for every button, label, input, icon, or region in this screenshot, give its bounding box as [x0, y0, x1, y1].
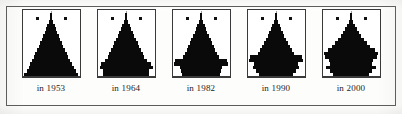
- population-pyramid-figure: in 1953in 1964in 1982in 1990in 2000: [0, 0, 402, 114]
- pyramid-plot-area: [22, 9, 81, 78]
- panel-caption: in 1953: [37, 83, 66, 94]
- baseline-axis: [323, 76, 380, 77]
- pyramid-panel: in 1964: [91, 9, 161, 94]
- panel-caption: in 1982: [187, 83, 216, 94]
- baseline-axis: [173, 76, 230, 77]
- pyramid-panel: in 2000: [316, 9, 386, 94]
- pyramid-panel: in 1953: [16, 9, 86, 94]
- pyramid-bars: [23, 13, 80, 76]
- panel-caption: in 1964: [112, 83, 141, 94]
- pyramid-bars: [323, 13, 380, 76]
- panel-caption: in 1990: [262, 83, 291, 94]
- pyramid-plot-area: [322, 9, 381, 78]
- pyramid-bars: [173, 13, 230, 76]
- baseline-axis: [248, 76, 305, 77]
- pyramid-panel-strip: in 1953in 1964in 1982in 1990in 2000: [10, 9, 392, 103]
- baseline-axis: [23, 76, 80, 77]
- pyramid-panel: in 1982: [166, 9, 236, 94]
- pyramid-bars: [248, 13, 305, 76]
- pyramid-plot-area: [97, 9, 156, 78]
- pyramid-bars: [98, 13, 155, 76]
- pyramid-panel: in 1990: [241, 9, 311, 94]
- panel-caption: in 2000: [337, 83, 366, 94]
- pyramid-plot-area: [172, 9, 231, 78]
- baseline-axis: [98, 76, 155, 77]
- pyramid-plot-area: [247, 9, 306, 78]
